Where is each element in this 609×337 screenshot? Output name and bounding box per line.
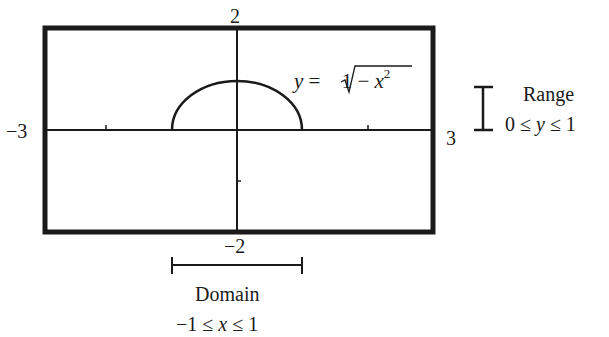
ymin-label: −2 — [224, 236, 245, 256]
range-title: Range — [523, 84, 574, 104]
domain-title: Domain — [195, 284, 259, 304]
function-lhs: y — [294, 69, 303, 93]
graph-canvas — [0, 0, 609, 337]
xmin-label: −3 — [6, 121, 27, 141]
function-label: y = 1 − x2 — [294, 69, 390, 92]
range-expression: 0 ≤ y ≤ 1 — [505, 114, 576, 134]
function-exp: 2 — [384, 66, 391, 81]
xmax-label: 3 — [446, 128, 456, 148]
function-eq: = — [303, 69, 325, 93]
domain-bracket — [172, 257, 302, 274]
range-bracket — [474, 87, 493, 130]
ymax-label: 2 — [230, 6, 240, 26]
function-radicand: 1 − — [342, 69, 375, 93]
function-var: x — [375, 69, 384, 93]
domain-expression: −1 ≤ x ≤ 1 — [176, 314, 258, 334]
